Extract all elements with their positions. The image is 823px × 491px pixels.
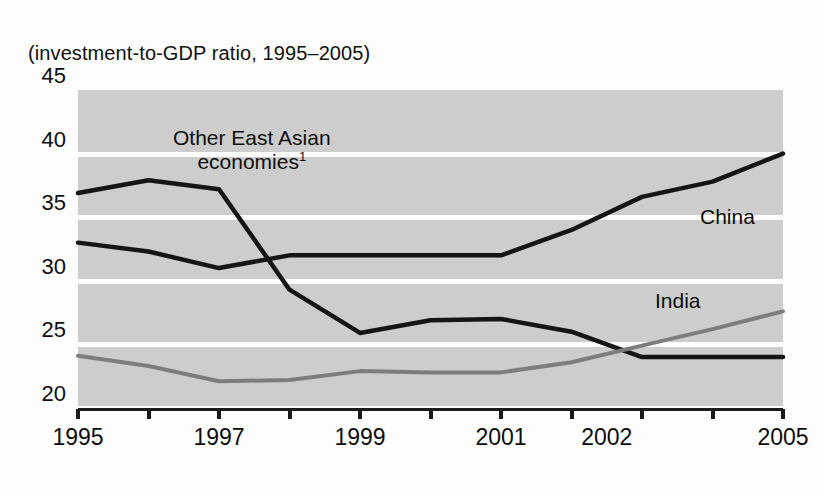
series-label-other-line1: Other East Asian bbox=[173, 126, 331, 149]
series-label-other-east-asian: Other East Asian economies1 bbox=[173, 126, 331, 174]
x-tick-2004 bbox=[711, 409, 715, 419]
x-tick-1995 bbox=[76, 409, 80, 419]
series-label-china: China bbox=[700, 205, 755, 229]
series-label-other-line2: economies bbox=[197, 150, 299, 173]
series-label-other-footnote: 1 bbox=[299, 149, 306, 164]
x-tick-1998 bbox=[288, 409, 292, 419]
x-tick-1999 bbox=[358, 409, 362, 419]
x-tick-label-1995: 1995 bbox=[52, 424, 103, 451]
x-tick-2005 bbox=[781, 409, 785, 419]
x-tick-2000 bbox=[429, 409, 433, 419]
series-label-india: India bbox=[655, 289, 701, 313]
x-tick-1997 bbox=[217, 409, 221, 419]
x-tick-label-1997: 1997 bbox=[193, 424, 244, 451]
x-tick-label-2001: 2001 bbox=[475, 424, 526, 451]
chart-figure: (investment-to-GDP ratio, 1995–2005) 202… bbox=[0, 0, 823, 491]
x-tick-1996 bbox=[147, 409, 151, 419]
series-lines bbox=[0, 0, 823, 491]
x-tick-2003 bbox=[640, 409, 644, 419]
x-tick-label-1999: 1999 bbox=[334, 424, 385, 451]
x-tick-label-2002: 2002 bbox=[581, 424, 632, 451]
x-tick-2002 bbox=[570, 409, 574, 419]
x-tick-label-2005: 2005 bbox=[757, 424, 808, 451]
x-tick-2001 bbox=[499, 409, 503, 419]
series-line-other-east-asian-economies bbox=[78, 180, 783, 357]
